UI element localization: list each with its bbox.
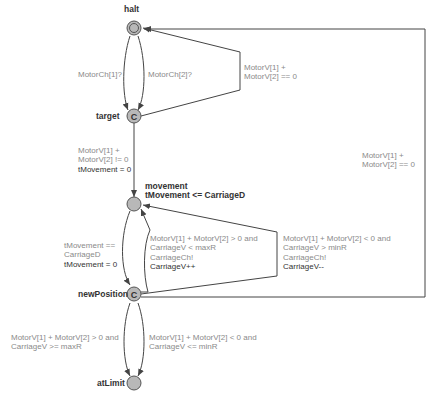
edge-movement-newposition[interactable] xyxy=(123,211,131,285)
edge-newposition-atlimit-max[interactable] xyxy=(124,303,130,376)
location-target[interactable]: C xyxy=(127,109,141,123)
location-name-target: target xyxy=(96,112,120,121)
location-movement[interactable] xyxy=(127,197,141,211)
sync-label-motorch1: MotorCh[1]? xyxy=(78,70,122,79)
edge-halt-target-1[interactable] xyxy=(124,36,130,110)
location-name-newposition: newPosition xyxy=(78,290,128,299)
edge-label-newposition-movement-dec: MotorV[1] + MotorV[2] < 0 and CarriageV … xyxy=(283,234,391,271)
location-atlimit[interactable] xyxy=(127,376,141,390)
edge-halt-target-2[interactable] xyxy=(138,36,144,110)
guard-label-newposition-atlimit-max: MotorV[1] + MotorV[2] > 0 and CarriageV … xyxy=(11,333,119,351)
location-halt[interactable] xyxy=(127,21,141,35)
edge-label-target-movement: MotorV[1] + MotorV[2] != 0 tMovement = 0 xyxy=(78,146,131,174)
guard-label-newposition-atlimit-min: MotorV[1] + MotorV[2] < 0 and CarriageV … xyxy=(149,333,257,351)
edge-newposition-atlimit-min[interactable] xyxy=(138,303,144,376)
edge-label-movement-newposition: tMovement == CarriageD tMovement = 0 xyxy=(64,241,117,269)
committed-marker: C xyxy=(131,112,138,122)
location-name-atlimit: atLimit xyxy=(97,379,125,388)
sync-label-motorch2: MotorCh[2]? xyxy=(148,70,192,79)
location-name-halt: halt xyxy=(124,5,139,14)
guard-label-newposition-halt: MotorV[1] + MotorV[2] == 0 xyxy=(362,151,415,169)
edge-label-newposition-movement-inc: MotorV[1] + MotorV[2] > 0 and CarriageV … xyxy=(150,234,258,271)
location-invariant-movement: tMovement <= CarriageD xyxy=(145,191,245,200)
guard-label-target-halt: MotorV[1] + MotorV[2] == 0 xyxy=(244,63,297,81)
location-newposition[interactable]: C xyxy=(127,287,141,301)
committed-marker: C xyxy=(131,290,138,300)
